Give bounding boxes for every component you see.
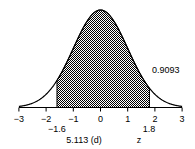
x-axis-tick-labels: −3−2−10123 xyxy=(14,114,185,124)
x-tick-label: 2 xyxy=(152,114,157,124)
shaded-area xyxy=(57,10,149,108)
upper-bound-label: 1.8 xyxy=(143,124,156,134)
x-tick-label: −2 xyxy=(41,114,51,124)
axis-variable-label: z xyxy=(137,135,142,145)
x-tick-label: −1 xyxy=(68,114,78,124)
x-tick-label: 0 xyxy=(98,114,103,124)
normal-curve-chart: −3−2−10123 0.9093 −1.6 1.8 5.113 (d) z xyxy=(0,0,195,149)
x-tick-label: −3 xyxy=(14,114,24,124)
x-tick-label: 3 xyxy=(180,114,185,124)
x-tick-label: 1 xyxy=(125,114,130,124)
area-label: 0.9093 xyxy=(152,65,180,75)
lower-bound-label: −1.6 xyxy=(48,124,66,134)
x-axis-ticks xyxy=(19,108,182,112)
figure-label: 5.113 (d) xyxy=(66,135,101,145)
